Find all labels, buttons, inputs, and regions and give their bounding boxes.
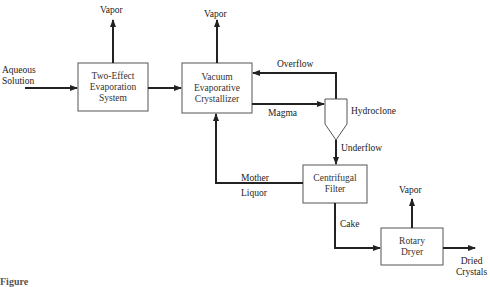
rotary-dryer-label: Rotary Dryer bbox=[381, 228, 443, 265]
product-label: Dried Crystals bbox=[456, 256, 487, 278]
dryer-label-line1: Rotary bbox=[399, 236, 425, 247]
evaporator-vapor-label: Vapor bbox=[100, 5, 123, 16]
crystallizer-label: Vacuum Evaporative Crystallizer bbox=[182, 63, 252, 113]
evaporator-label-line2: Evaporation bbox=[90, 82, 136, 93]
crystallizer-label-line2: Evaporative bbox=[194, 83, 240, 94]
overflow-arrow bbox=[253, 73, 336, 99]
product-label-line2: Crystals bbox=[456, 267, 487, 278]
underflow-label: Underflow bbox=[341, 143, 382, 154]
crystallizer-label-line3: Crystallizer bbox=[195, 94, 239, 105]
magma-label: Magma bbox=[268, 108, 297, 119]
crystallizer-vapor-label: Vapor bbox=[204, 9, 227, 20]
centrifugal-filter-label: Centrifugal Filter bbox=[303, 165, 367, 203]
filter-label-line1: Centrifugal bbox=[313, 173, 356, 184]
mother-liquor-line2: Liquor bbox=[241, 186, 269, 201]
product-label-line1: Dried bbox=[456, 256, 487, 267]
hydroclone-shape bbox=[325, 99, 347, 140]
overflow-label: Overflow bbox=[277, 59, 313, 70]
evaporator-label: Two-Effect Evaporation System bbox=[78, 63, 148, 111]
feed-label-line1: Aqueous bbox=[2, 65, 36, 76]
feed-label: Aqueous Solution bbox=[2, 65, 36, 87]
mother-liquor-line1: Mother bbox=[241, 171, 269, 186]
filter-label-line2: Filter bbox=[325, 184, 346, 195]
dryer-label-line2: Dryer bbox=[401, 247, 423, 258]
crystallizer-label-line1: Vacuum bbox=[201, 72, 232, 83]
hydroclone-label: Hydroclone bbox=[351, 106, 396, 117]
evaporator-label-line1: Two-Effect bbox=[92, 71, 135, 82]
mother-liquor-label: Mother Liquor bbox=[241, 171, 269, 201]
feed-label-line2: Solution bbox=[2, 76, 36, 87]
evaporator-label-line3: System bbox=[99, 93, 127, 104]
figure-caption: Figure bbox=[0, 276, 28, 287]
dryer-vapor-label: Vapor bbox=[399, 185, 422, 196]
cake-label: Cake bbox=[340, 219, 360, 230]
